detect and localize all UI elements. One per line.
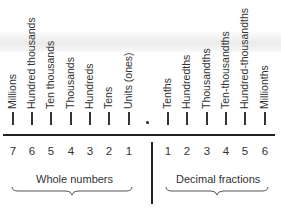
label-thousands: Thousands [65,57,76,109]
digit: 6 [259,145,271,157]
digit: 7 [7,145,19,157]
label-hundred-thousands: Hundred thousands [26,17,37,109]
tick-mark [206,112,208,125]
decimal-brace-icon [164,186,270,196]
tick-mark [128,112,130,125]
digit: 2 [103,145,115,157]
label-thousandths: Thousandths [201,48,212,109]
tick-mark [264,112,266,125]
digit: 4 [220,145,232,157]
digit: 2 [181,145,193,157]
tick-mark [31,112,33,125]
tick-mark [70,112,72,125]
label-millionths: Millionths [259,65,270,109]
decimal-point-icon [146,121,149,124]
label-hundredths: Hundredths [181,55,192,109]
label-ten-thousands: Ten thousands [45,41,56,109]
decimal-fractions-label: Decimal fractions [176,173,260,185]
tick-mark [186,112,188,125]
tick-mark [50,112,52,125]
label-units: Units (ones) [123,52,134,109]
label-hundred-thousandths: Hundred-thousandths [239,8,250,109]
digit: 5 [45,145,57,157]
decimal-divider [151,142,153,204]
whole-numbers-label: Whole numbers [36,173,113,185]
digit: 1 [123,145,135,157]
digit: 4 [65,145,77,157]
tick-mark [225,112,227,125]
digit: 1 [162,145,174,157]
label-millions: Millions [7,74,18,109]
digit: 3 [201,145,213,157]
horizontal-rule [3,134,275,136]
label-hundreds: Hundreds [84,63,95,109]
tick-mark [12,112,14,125]
tick-mark [108,112,110,125]
digit: 5 [239,145,251,157]
label-tens: Tens [103,87,114,109]
tick-mark [244,112,246,125]
digit: 3 [84,145,96,157]
tick-mark [167,112,169,125]
tick-mark [89,112,91,125]
digit: 6 [26,145,38,157]
label-tenths: Tenths [162,78,173,109]
whole-brace-icon [10,186,134,196]
label-ten-thousandths: Ten-thousandths [220,31,231,109]
